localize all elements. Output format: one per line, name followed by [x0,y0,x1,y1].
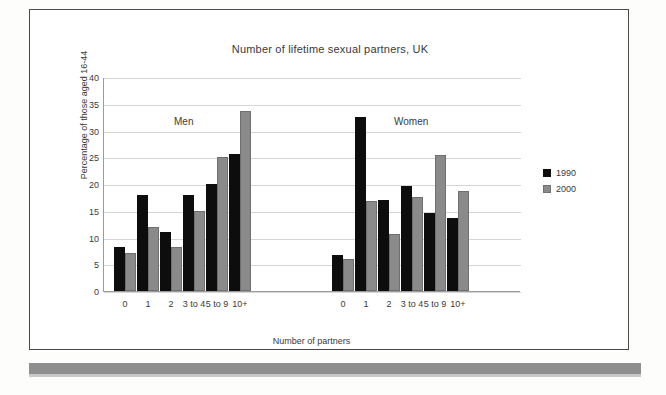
bar-1990-2 [160,232,171,291]
bar-category: 1 [355,117,377,291]
legend-swatch-2000 [543,185,551,193]
y-axis-tick-label: 30 [59,127,99,137]
x-axis-tick-label: 2 [168,299,173,309]
x-axis-tick-label: 1 [363,299,368,309]
chart-legend: 19902000 [543,168,576,200]
legend-label-1990: 1990 [556,168,576,178]
bar-category: 5 to 9 [206,157,228,291]
x-axis-tick-label: 10+ [450,299,465,309]
bar-1990-0 [332,255,343,291]
x-axis-tick-label: 0 [340,299,345,309]
x-axis-tick-label: 3 to 4 [401,299,424,309]
bar-1990-10+ [229,154,240,291]
bar-2000-10+ [458,191,469,291]
plot-area: 0123 to 45 to 910+0123 to 45 to 910+ Men… [103,78,520,292]
panel-annotation-women: Women [394,116,428,127]
bar-2000-3-to-4 [194,211,205,291]
bar-2000-5-to-9 [217,157,228,291]
bar-2000-3-to-4 [412,197,423,291]
x-axis-tick-label: 3 to 4 [183,299,206,309]
y-axis-tick-label: 35 [59,100,99,110]
bar-2000-1 [148,227,159,291]
bar-1990-3-to-4 [401,186,412,291]
bar-group-women: 0123 to 45 to 910+ [332,117,469,291]
scanned-page: Number of lifetime sexual partners, UK P… [0,0,666,395]
legend-label-2000: 2000 [556,184,576,194]
y-axis-tick-label: 25 [59,153,99,163]
bar-category: 5 to 9 [424,155,446,291]
x-axis-tick-label: 5 to 9 [424,299,447,309]
bar-1990-1 [137,195,148,291]
bar-1990-5-to-9 [206,184,217,291]
bar-1990-0 [114,247,125,291]
bar-category: 2 [378,200,400,291]
x-axis-tick-label: 1 [145,299,150,309]
bar-2000-2 [389,234,400,291]
legend-item-2000: 2000 [543,184,576,194]
bar-2000-10+ [240,111,251,291]
y-axis-tick-labels: 4035302520151050 [55,78,99,292]
x-axis-title: Number of partners [103,336,520,346]
bar-2000-2 [171,247,182,291]
y-axis-tick-label: 10 [59,234,99,244]
gridline [104,292,521,293]
legend-swatch-1990 [543,169,551,177]
bar-1990-10+ [447,218,458,291]
legend-item-1990: 1990 [543,168,576,178]
bar-category: 2 [160,232,182,291]
page-edge-band [29,363,641,374]
bar-1990-5-to-9 [424,213,435,291]
bar-category: 10+ [229,111,251,291]
gridline [104,78,521,79]
y-axis-tick-label: 0 [59,287,99,297]
bar-category: 0 [114,247,136,291]
bar-category: 0 [332,255,354,291]
bar-category: 3 to 4 [401,186,423,291]
bar-2000-0 [343,259,354,291]
x-axis-tick-label: 0 [122,299,127,309]
page-edge-shadow [29,374,641,377]
bar-category: 1 [137,195,159,291]
bar-category: 3 to 4 [183,195,205,291]
y-axis-tick-label: 20 [59,180,99,190]
gridline [104,105,521,106]
x-axis-tick-label: 10+ [232,299,247,309]
x-axis-tick-label: 5 to 9 [206,299,229,309]
bar-1990-3-to-4 [183,195,194,291]
panel-annotation-men: Men [174,116,193,127]
bar-category: 10+ [447,191,469,291]
bar-2000-1 [366,201,377,291]
bar-2000-0 [125,253,136,291]
y-axis-tick-label: 5 [59,260,99,270]
y-axis-tick-label: 40 [59,73,99,83]
bar-2000-5-to-9 [435,155,446,291]
bar-1990-2 [378,200,389,291]
bar-group-men: 0123 to 45 to 910+ [114,111,251,291]
y-axis-tick-label: 15 [59,207,99,217]
bar-1990-1 [355,117,366,291]
x-axis-tick-label: 2 [386,299,391,309]
chart-title: Number of lifetime sexual partners, UK [30,43,630,55]
